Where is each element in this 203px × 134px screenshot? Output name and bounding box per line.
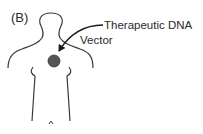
crotch-mark — [49, 121, 53, 124]
figure-panel: (B) Therapeutic DNA Vector — [0, 0, 203, 134]
left-arm-outline — [31, 67, 35, 121]
right-arm-outline — [67, 67, 71, 121]
vector-label: Vector — [80, 35, 113, 47]
therapeutic-dna-label: Therapeutic DNA — [104, 20, 192, 32]
panel-label: (B) — [11, 11, 28, 24]
vector-circle — [48, 55, 60, 67]
